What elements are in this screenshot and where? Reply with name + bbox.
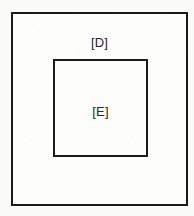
- outer-box-d: [D] [E]: [11, 12, 188, 206]
- inner-box-label: [E]: [55, 105, 146, 119]
- inner-box-e: [E]: [53, 59, 148, 157]
- diagram-canvas: [D] [E]: [0, 0, 194, 216]
- outer-box-label: [D]: [13, 36, 186, 50]
